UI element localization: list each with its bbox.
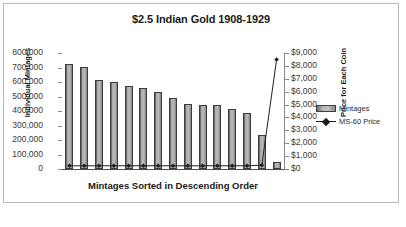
y-axis-right-tick — [285, 169, 289, 170]
y-axis-right-tick — [285, 92, 289, 93]
plot-area — [62, 53, 284, 169]
price-marker — [260, 163, 265, 168]
price-marker — [67, 164, 72, 169]
line-series-ms60-price — [62, 53, 284, 169]
y-axis-left-tick-label: 500,000 — [0, 91, 43, 101]
price-marker — [112, 164, 117, 169]
y-axis-left-tick-label: 0 — [0, 163, 43, 173]
legend-label-ms60-price: MS-60 Price — [339, 117, 380, 126]
y-axis-right-tick — [285, 53, 289, 54]
y-axis-left-tick-label: 600,000 — [0, 76, 43, 86]
price-marker — [171, 164, 176, 169]
chart-frame: $2.5 Indian Gold 1908-1929 0100,000200,0… — [3, 3, 399, 203]
y-axis-right-tick-label: $2,000 — [291, 137, 317, 147]
line-diamond-icon — [316, 117, 336, 126]
legend-item-ms60-price: MS-60 Price — [316, 116, 392, 127]
y-axis-right-tick-label: $3,000 — [291, 124, 317, 134]
y-axis-left-title: Individual Mintages — [23, 43, 32, 123]
bar-swatch-icon — [316, 105, 336, 112]
price-marker — [186, 164, 191, 169]
x-axis-title: Mintages Sorted in Descending Order — [44, 180, 302, 191]
y-axis-left-tick-label: 400,000 — [0, 105, 43, 115]
price-marker — [215, 164, 220, 169]
price-marker — [156, 164, 161, 169]
y-axis-left-tick-label: 800,000 — [0, 47, 43, 57]
y-axis-left-tick-label: 700,000 — [0, 62, 43, 72]
price-marker — [245, 164, 250, 169]
y-axis-right-tick-label: $0 — [291, 163, 300, 173]
price-marker — [97, 164, 102, 169]
y-axis-right-tick-label: $4,000 — [291, 111, 317, 121]
price-marker — [126, 164, 131, 169]
y-axis-right-tick — [285, 156, 289, 157]
legend-label-mintages: Mintages — [339, 104, 369, 113]
price-marker — [274, 57, 279, 62]
y-axis-left-tick-label: 100,000 — [0, 149, 43, 159]
y-axis-right-tick — [285, 117, 289, 118]
y-axis-left-tick-label: 300,000 — [0, 120, 43, 130]
y-axis-right-tick — [285, 66, 289, 67]
price-marker — [230, 164, 235, 169]
chart-title: $2.5 Indian Gold 1908-1929 — [4, 13, 398, 25]
price-line-path — [69, 59, 276, 165]
y-axis-right-tick-label: $8,000 — [291, 60, 317, 70]
legend-item-mintages: Mintages — [316, 103, 392, 114]
price-marker — [82, 164, 87, 169]
y-axis-right-tick — [285, 143, 289, 144]
y-axis-left-tick-label: 200,000 — [0, 134, 43, 144]
y-axis-right-tick-label: $1,000 — [291, 150, 317, 160]
price-marker — [200, 164, 205, 169]
price-marker — [141, 164, 146, 169]
y-axis-right-tick — [285, 105, 289, 106]
y-axis-right-tick — [285, 130, 289, 131]
x-axis-line — [62, 169, 285, 170]
y-axis-right-line — [284, 53, 285, 170]
y-axis-right-tick-label: $5,000 — [291, 99, 317, 109]
y-axis-right-tick — [285, 79, 289, 80]
chart-legend: Mintages MS-60 Price — [316, 103, 392, 129]
y-axis-right-tick-label: $9,000 — [291, 47, 317, 57]
y-axis-left-tick — [58, 169, 62, 170]
y-axis-right-tick-label: $7,000 — [291, 73, 317, 83]
y-axis-right-tick-label: $6,000 — [291, 86, 317, 96]
